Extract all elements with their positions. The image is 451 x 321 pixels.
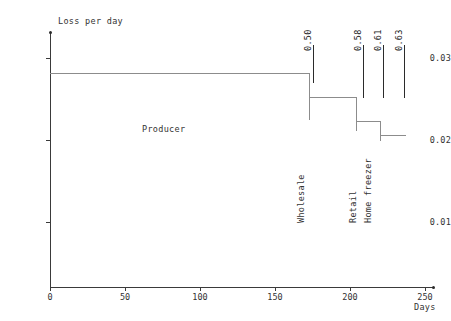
y-axis-title: Loss per day (58, 16, 123, 26)
marker-bar-050 (313, 45, 314, 83)
x-axis-title: Days (414, 302, 436, 312)
y-tick-label-003: 0.03 (407, 53, 451, 63)
x-tick-mark-250 (425, 287, 426, 291)
marker-label-061: 0.61 (373, 29, 383, 51)
x-tick-label-200: 200 (335, 292, 365, 302)
x-tick-mark-0 (50, 287, 51, 291)
y-tick-mark-003 (46, 58, 51, 59)
x-tick-label-50: 50 (110, 292, 140, 302)
curve-segment-home-freezer (380, 135, 406, 136)
marker-bar-058 (363, 45, 364, 98)
y-axis-arrow-cap (49, 31, 52, 34)
marker-label-050: 0.50 (303, 29, 313, 51)
curve-segment-wholesale (309, 97, 356, 98)
curve-rise-retail (356, 121, 357, 131)
x-axis-line (50, 287, 434, 288)
curve-segment-producer (50, 73, 309, 74)
marker-label-063: 0.63 (394, 29, 404, 51)
marker-label-058: 0.58 (353, 29, 363, 51)
x-axis-arrow-cap (432, 286, 435, 289)
annotation-producer: Producer (142, 124, 185, 134)
y-tick-label-002: 0.02 (407, 135, 451, 145)
x-tick-label-250: 250 (410, 292, 440, 302)
x-tick-mark-150 (275, 287, 276, 291)
curve-segment-retail (356, 121, 380, 122)
y-axis-line (50, 32, 51, 288)
x-tick-label-150: 150 (260, 292, 290, 302)
x-tick-mark-100 (200, 287, 201, 291)
x-tick-mark-50 (125, 287, 126, 291)
x-tick-label-100: 100 (185, 292, 215, 302)
y-tick-label-001: 0.01 (407, 217, 451, 227)
x-tick-mark-200 (350, 287, 351, 291)
annotation-wholesale: Wholesale (296, 174, 306, 223)
y-tick-mark-001 (46, 222, 51, 223)
loss-per-day-step-chart: Loss per day Days 0.03 0.02 0.01 0 50 10… (0, 0, 451, 321)
marker-bar-063 (404, 45, 405, 98)
x-tick-label-0: 0 (35, 292, 65, 302)
marker-bar-061 (383, 45, 384, 98)
curve-rise-wholesale (309, 97, 310, 120)
annotation-retail: Retail (348, 190, 358, 223)
y-tick-mark-002 (46, 140, 51, 141)
annotation-home-freezer: Home freezer (363, 158, 373, 223)
